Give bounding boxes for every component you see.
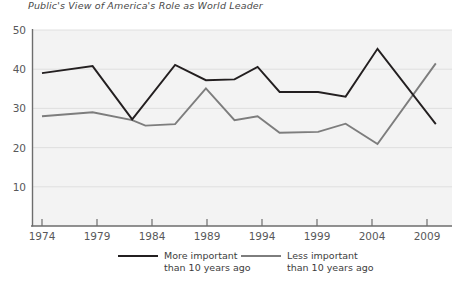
legend-label-more-important-line2: than 10 years ago [164,262,251,273]
y-label-50: 50 [13,24,26,36]
legend-label-more-important-line1: More important [164,250,238,261]
x-label-1984: 1984 [139,230,166,242]
x-label-1989: 1989 [194,230,221,242]
x-label-1994: 1994 [249,230,276,242]
x-label-2004: 2004 [359,230,386,242]
y-label-10: 10 [13,181,26,193]
chart-legend: More important than 10 years ago Less im… [118,250,374,273]
legend-label-less-important-line2: than 10 years ago [287,262,374,273]
y-label-40: 40 [13,63,26,75]
chart-figure: Public's View of America's Role as World… [0,0,452,281]
x-label-2009: 2009 [414,230,441,242]
x-axis-labels: 1974 1979 1984 1989 1994 1999 2004 2009 [29,230,441,242]
line-chart-plot: 50 40 30 20 10 1974 1979 1984 1989 1994 … [0,14,452,281]
y-label-20: 20 [13,142,26,154]
x-label-1979: 1979 [84,230,111,242]
y-axis-labels: 50 40 30 20 10 [13,24,26,193]
legend-label-less-important-line1: Less important [287,250,358,261]
x-label-1974: 1974 [29,230,56,242]
y-label-30: 30 [13,102,26,114]
x-label-1999: 1999 [304,230,331,242]
chart-title: Public's View of America's Role as World… [28,0,263,11]
